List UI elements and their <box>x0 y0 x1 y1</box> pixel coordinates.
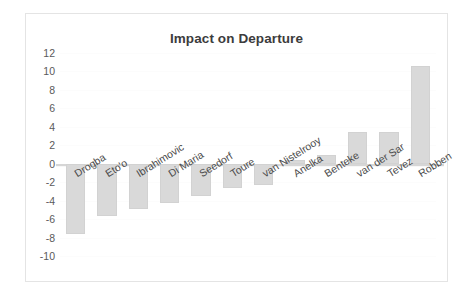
gridline <box>60 238 436 239</box>
chart-title: Impact on Departure <box>26 31 447 46</box>
y-axis-tick-0: 0 <box>49 158 55 170</box>
bar-benteke[interactable] <box>317 155 336 164</box>
y-axis-tick-neg10: -10 <box>40 250 55 262</box>
bar-van-der-sar[interactable] <box>348 132 367 163</box>
y-axis-tick-8: 8 <box>49 84 55 96</box>
bar-seedorf[interactable] <box>191 164 210 196</box>
bar-drogba[interactable] <box>66 164 85 234</box>
y-axis-tick-10: 10 <box>43 65 55 77</box>
y-axis-tick-neg4: -4 <box>46 195 55 207</box>
gridline <box>60 108 436 109</box>
y-axis-tick-neg2: -2 <box>46 176 55 188</box>
chart-frame: Impact on Departure 121086420-2-4-6-8-10… <box>25 13 448 282</box>
bar-anelka[interactable] <box>285 160 304 164</box>
y-axis-tick-2: 2 <box>49 139 55 151</box>
gridline <box>60 256 436 257</box>
y-axis-tick-neg8: -8 <box>46 232 55 244</box>
bar-eto-o[interactable] <box>97 164 116 217</box>
bar-robben[interactable] <box>411 66 430 164</box>
gridline <box>60 219 436 220</box>
y-axis-tick-6: 6 <box>49 102 55 114</box>
gridline <box>60 53 436 54</box>
gridline <box>60 90 436 91</box>
y-axis-tick-4: 4 <box>49 121 55 133</box>
bar-van-nistelrooy[interactable] <box>254 164 273 185</box>
bar-tevez[interactable] <box>379 132 398 163</box>
bar-ibrahimovic[interactable] <box>129 164 148 209</box>
y-axis-tick-12: 12 <box>43 47 55 59</box>
y-axis-tick-neg6: -6 <box>46 213 55 225</box>
bar-toure[interactable] <box>223 164 242 188</box>
gridline <box>60 71 436 72</box>
plot-area: 121086420-2-4-6-8-10 DrogbaEto'oIbrahimo… <box>60 53 436 256</box>
gridline <box>60 127 436 128</box>
bar-di-maria[interactable] <box>160 164 179 204</box>
